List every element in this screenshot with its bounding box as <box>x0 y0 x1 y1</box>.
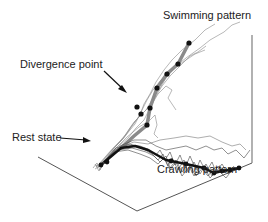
swimming-pattern-label: Swimming pattern <box>163 10 251 21</box>
rest-state-label: Rest state <box>12 132 62 143</box>
state-space-plot <box>0 0 268 222</box>
swimming-traces <box>98 22 240 166</box>
divergence-point-label: Divergence point <box>20 59 103 70</box>
divergence-arrow-icon <box>104 71 127 93</box>
swimming-band <box>121 43 189 148</box>
rest-arrow-icon <box>60 137 91 143</box>
crawling-pattern-label: Crawling pattern <box>157 164 237 175</box>
